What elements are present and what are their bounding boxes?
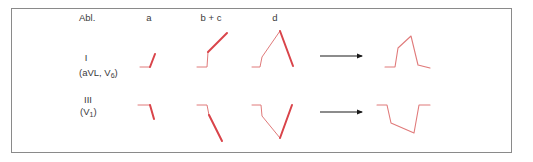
trace-row1-d-downstroke	[280, 31, 293, 66]
row2-traces	[138, 105, 430, 141]
row1-traces	[140, 31, 430, 68]
trace-row2-result	[377, 105, 430, 133]
trace-row2-bc-baseline	[197, 105, 209, 115]
trace-row1-result	[385, 36, 430, 68]
trace-row2-bc-st-segment	[209, 115, 222, 141]
ecg-diagram	[0, 0, 533, 162]
trace-row2-a-st-segment	[150, 105, 154, 119]
trace-row1-bc-baseline	[197, 52, 208, 67]
trace-row1-d-upstroke	[252, 31, 280, 67]
trace-row1-bc-st-segment	[208, 33, 227, 52]
trace-row2-d-upstroke	[280, 105, 292, 138]
trace-row1-a-st-segment	[150, 54, 155, 67]
trace-row2-d-downstroke	[252, 105, 280, 138]
